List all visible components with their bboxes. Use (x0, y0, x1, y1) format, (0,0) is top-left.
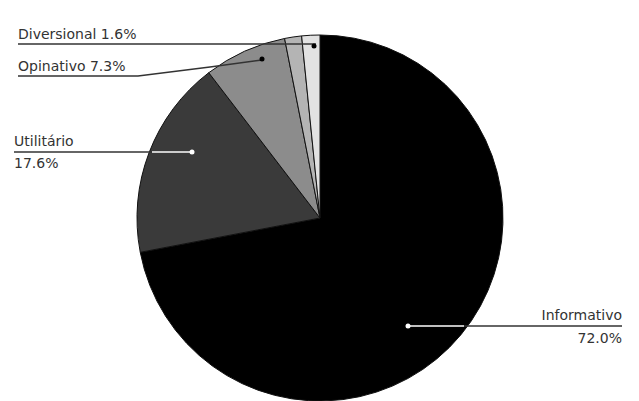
label-informativo-name: Informativo (542, 307, 622, 323)
label-utilitario-pct: 17.6% (14, 155, 58, 171)
label-informativo-pct: 72.0% (578, 330, 622, 346)
pie-slices (137, 35, 503, 401)
label-opinativo: Opinativo 7.3% (18, 58, 126, 74)
label-diversional: Diversional 1.6% (18, 26, 136, 42)
label-utilitario-name: Utilitário (14, 133, 74, 149)
